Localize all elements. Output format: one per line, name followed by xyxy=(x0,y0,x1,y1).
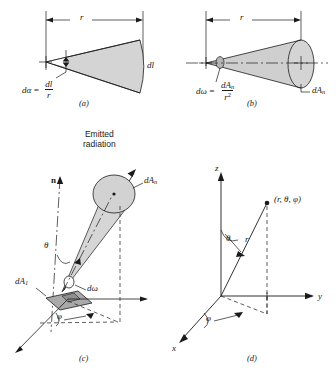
radiation-geometry-figure: r dl dα = dl r (a) xyxy=(0,0,336,370)
dimension-arrow-right xyxy=(294,18,301,23)
panel-c-area-1-base: dA xyxy=(15,276,25,286)
point-marker xyxy=(265,201,270,206)
phi-leader xyxy=(64,316,86,320)
panel-b-num-subscript: n xyxy=(231,83,234,90)
panel-b-num-base: dA xyxy=(221,80,231,90)
y-axis-arrowhead xyxy=(305,293,314,299)
panel-c-area-n-label: dAn xyxy=(144,176,157,186)
phi-arrowhead xyxy=(86,313,94,319)
panel-b-caption: (b) xyxy=(247,98,257,108)
panel-a-caption: (a) xyxy=(79,98,89,108)
phi-ray-2 xyxy=(40,322,118,323)
area-1-leader xyxy=(36,288,46,296)
area-n-center-dot xyxy=(112,192,115,195)
xy-projection-dashed xyxy=(221,296,267,314)
in-plane-axis-line xyxy=(18,299,68,350)
panel-a-formula-eq: = xyxy=(33,85,39,95)
phi-ray-1 xyxy=(68,301,118,322)
panel-c: Emitted radiation n θ φ dAn dω dA1 (c) xyxy=(0,110,168,370)
panel-a-formula-denominator: r xyxy=(45,89,53,100)
panel-c-solid-angle-label: dω xyxy=(87,284,98,293)
panel-b-formula: dω = dAn r2 xyxy=(196,80,236,102)
in-plane-axis-arrowhead xyxy=(15,346,23,353)
emitted-radiation-arrowhead xyxy=(128,169,137,177)
panel-c-caption: (c) xyxy=(79,353,88,363)
dimension-arrow-left xyxy=(206,18,213,23)
panel-b-area-label: dAn xyxy=(312,86,325,96)
panel-c-phi-label: φ xyxy=(57,312,62,321)
panel-a-radius-label: r xyxy=(80,13,84,22)
panel-b-formula-denominator: r2 xyxy=(222,90,233,102)
panel-c-area-n-base: dA xyxy=(144,175,154,185)
panel-a-fraction: dl r xyxy=(43,79,54,100)
panel-b-radius-label: r xyxy=(240,13,244,22)
panel-a-formula: dα = dl r xyxy=(22,79,54,100)
panel-c-area-n-subscript: n xyxy=(154,178,157,185)
panel-d-radius-label: r xyxy=(245,235,249,244)
panel-c-area-1-subscript: 1 xyxy=(25,279,28,286)
panel-d-point-label: (r, θ, φ) xyxy=(274,195,301,204)
panel-b-fraction: dAn r2 xyxy=(219,80,236,102)
domega-leader xyxy=(75,285,86,290)
panel-d-caption: (d) xyxy=(247,353,257,363)
panel-c-theta-label: θ xyxy=(44,241,48,250)
panel-b-area-subscript: n xyxy=(322,88,325,95)
radius-vector-line xyxy=(221,205,266,296)
theta-arc xyxy=(57,255,70,263)
panel-b-formula-eq: = xyxy=(209,86,215,96)
solid-angle-ellipse xyxy=(216,57,224,69)
x-axis-arrowhead xyxy=(179,334,188,343)
dimension-arrow-left xyxy=(46,18,53,23)
panel-d-x-axis-label: x xyxy=(172,344,176,353)
phi-leader xyxy=(214,315,238,321)
normal-vector-label: n xyxy=(51,176,56,185)
panel-b-formula-numerator: dAn xyxy=(219,80,236,90)
panel-d-phi-label: φ xyxy=(206,314,211,323)
panel-d: z y x r θ φ (r, θ, φ) (d) xyxy=(168,110,336,370)
panel-a: r dl dα = dl r (a) xyxy=(0,0,168,110)
normal-arrowhead xyxy=(57,176,63,184)
panel-d-y-axis-label: y xyxy=(318,292,322,301)
panel-c-area-1-label: dA1 xyxy=(15,277,28,287)
panel-b-area-base: dA xyxy=(312,85,322,95)
emitted-radiation-label: Emitted radiation xyxy=(83,130,116,150)
z-axis-arrowhead xyxy=(218,172,224,181)
dalpha-leader xyxy=(56,72,66,78)
reference-axis-arrowhead xyxy=(140,297,148,302)
area-n-leader xyxy=(133,183,143,188)
panel-d-graphic xyxy=(168,110,336,370)
panel-b-den-superscript: 2 xyxy=(228,91,231,98)
panel-d-z-axis-label: z xyxy=(215,164,219,173)
panel-b-formula-lhs: dω xyxy=(196,86,207,96)
dimension-arrow-right xyxy=(136,18,143,23)
phi-arrowhead xyxy=(234,312,243,318)
panel-a-formula-numerator: dl xyxy=(43,79,54,89)
panel-a-formula-lhs: dα xyxy=(22,85,31,95)
panel-b-graphic xyxy=(168,0,336,110)
panel-a-arc-label: dl xyxy=(147,61,154,70)
panel-d-theta-label: θ xyxy=(226,234,230,243)
x-axis-line xyxy=(183,296,221,338)
panel-b: r dAn dω = dAn r2 (b) xyxy=(168,0,336,110)
